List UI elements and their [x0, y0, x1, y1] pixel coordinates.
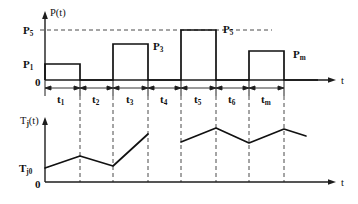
- temperature-y-axis-arrow: [42, 117, 48, 125]
- power-tick-label-p1: P1: [23, 58, 34, 72]
- arrowhead-left: [249, 86, 255, 90]
- power-plot-group: P5 P1 0 P(t) t P3 P5 Pm: [23, 7, 344, 88]
- pulse-label-pm: Pm: [293, 48, 306, 62]
- power-origin-label: 0: [35, 76, 41, 88]
- temperature-plot-group: Tj(t) Tj0 0 t: [19, 96, 344, 190]
- power-temperature-diagram: P5 P1 0 P(t) t P3 P5 Pm: [0, 0, 358, 204]
- power-y-axis-arrow: [42, 11, 48, 19]
- arrowhead-left: [148, 86, 154, 90]
- power-tick-label-p5: P5: [23, 24, 34, 38]
- temperature-curve-segment-a: [45, 134, 148, 168]
- pulse-label-p3: P3: [153, 40, 164, 54]
- power-pulse-train-curve: [45, 30, 318, 80]
- interval-label-tm: tm: [261, 93, 271, 107]
- power-x-axis-arrow: [328, 77, 336, 83]
- interval-label-t1: t1: [57, 93, 65, 107]
- arrowhead-right: [278, 86, 284, 90]
- arrowhead-left: [80, 86, 86, 90]
- temperature-origin-label: 0: [35, 178, 41, 190]
- arrowhead-left: [216, 86, 222, 90]
- interval-label-t3: t3: [126, 93, 134, 107]
- temperature-x-axis-arrow: [328, 179, 336, 185]
- interval-label-t6: t6: [228, 93, 236, 107]
- arrowhead-left: [181, 86, 187, 90]
- interval-label-t2: t2: [92, 93, 100, 107]
- temperature-initial-label: Tj0: [19, 162, 33, 176]
- arrowhead-left: [45, 86, 51, 90]
- figure-canvas: P5 P1 0 P(t) t P3 P5 Pm: [0, 0, 358, 204]
- temperature-y-axis-title: Tj(t): [20, 115, 39, 128]
- arrowhead-left: [113, 86, 119, 90]
- interval-dimension-row: t1 t2 t3 t4 t5 t6 tm: [45, 80, 284, 107]
- temperature-x-axis-title: t: [341, 177, 344, 188]
- power-x-axis-title: t: [341, 75, 344, 86]
- interval-label-t4: t4: [160, 93, 168, 107]
- temperature-curve-segment-b: [181, 128, 306, 143]
- interval-label-t5: t5: [194, 93, 202, 107]
- pulse-label-p5: P5: [223, 23, 234, 37]
- power-y-axis-title: P(t): [50, 7, 66, 19]
